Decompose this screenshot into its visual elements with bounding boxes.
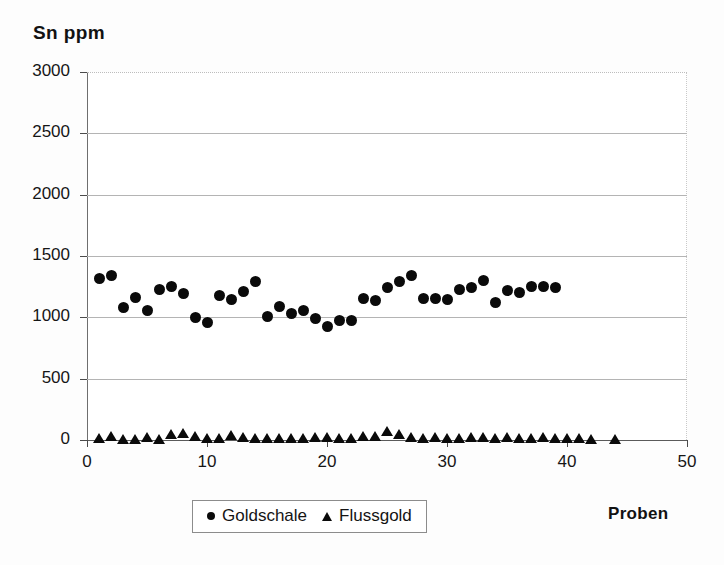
data-point-flussgold	[393, 429, 405, 439]
y-tick-2500	[80, 133, 87, 134]
data-point-flussgold	[213, 433, 225, 443]
data-point-flussgold	[609, 434, 621, 444]
x-axis-label-0: 0	[62, 452, 112, 472]
data-point-flussgold	[549, 433, 561, 443]
data-point-goldschale	[298, 305, 309, 316]
data-point-goldschale	[202, 317, 213, 328]
y-axis-label-0: 0	[10, 429, 70, 449]
data-point-flussgold	[429, 432, 441, 442]
data-point-goldschale	[190, 312, 201, 323]
data-point-flussgold	[309, 432, 321, 442]
data-point-goldschale	[262, 311, 273, 322]
data-point-goldschale	[310, 313, 321, 324]
data-point-goldschale	[394, 276, 405, 287]
data-point-goldschale	[250, 276, 261, 287]
data-point-goldschale	[178, 288, 189, 299]
data-point-goldschale	[118, 302, 129, 313]
x-axis-label-20: 20	[302, 452, 352, 472]
data-point-goldschale	[514, 287, 525, 298]
data-point-goldschale	[454, 284, 465, 295]
data-point-goldschale	[502, 285, 513, 296]
data-point-flussgold	[177, 428, 189, 438]
data-point-goldschale	[358, 293, 369, 304]
data-point-flussgold	[369, 431, 381, 441]
data-point-flussgold	[249, 433, 261, 443]
data-point-goldschale	[334, 315, 345, 326]
y-axis-label-1500: 1500	[10, 245, 70, 265]
x-axis-title: Proben	[608, 504, 668, 524]
data-point-flussgold	[333, 433, 345, 443]
data-point-flussgold	[285, 433, 297, 443]
data-point-flussgold	[381, 426, 393, 436]
data-point-flussgold	[189, 431, 201, 441]
gridline-y-2000	[87, 195, 687, 196]
x-tick-0	[87, 440, 88, 447]
data-point-flussgold	[525, 433, 537, 443]
x-axis-line	[87, 440, 688, 441]
data-point-goldschale	[370, 295, 381, 306]
data-point-flussgold	[165, 429, 177, 439]
data-point-flussgold	[237, 432, 249, 442]
data-point-goldschale	[478, 275, 489, 286]
data-point-flussgold	[465, 432, 477, 442]
data-point-flussgold	[105, 431, 117, 441]
data-point-goldschale	[154, 284, 165, 295]
data-point-goldschale	[166, 281, 177, 292]
y-tick-1500	[80, 256, 87, 257]
data-point-flussgold	[417, 433, 429, 443]
data-point-flussgold	[585, 434, 597, 444]
legend-item-flussgold: Flussgold	[322, 506, 412, 526]
y-tick-3000	[80, 72, 87, 73]
data-point-goldschale	[322, 321, 333, 332]
data-point-flussgold	[477, 432, 489, 442]
legend-label-flussgold: Flussgold	[339, 506, 412, 526]
circle-marker-icon	[207, 512, 215, 520]
data-point-flussgold	[453, 433, 465, 443]
data-point-flussgold	[405, 432, 417, 442]
data-point-goldschale	[466, 282, 477, 293]
data-point-goldschale	[130, 292, 141, 303]
y-tick-0	[80, 440, 87, 441]
data-point-goldschale	[346, 315, 357, 326]
data-point-goldschale	[238, 286, 249, 297]
gridline-y-2500	[87, 133, 687, 134]
chart-title: Sn ppm	[33, 22, 105, 44]
gridline-y-3000	[87, 72, 687, 73]
data-point-flussgold	[153, 434, 165, 444]
y-axis-label-500: 500	[10, 368, 70, 388]
gridline-y-500	[87, 379, 687, 380]
gridline-y-1500	[87, 256, 687, 257]
data-point-flussgold	[573, 433, 585, 443]
data-point-flussgold	[357, 431, 369, 441]
y-axis-label-3000: 3000	[10, 61, 70, 81]
x-axis-label-10: 10	[182, 452, 232, 472]
y-tick-1000	[80, 317, 87, 318]
data-point-goldschale	[214, 290, 225, 301]
y-tick-500	[80, 379, 87, 380]
data-point-flussgold	[297, 433, 309, 443]
data-point-goldschale	[550, 282, 561, 293]
data-point-goldschale	[106, 270, 117, 281]
data-point-flussgold	[561, 433, 573, 443]
data-point-goldschale	[274, 301, 285, 312]
data-point-flussgold	[201, 433, 213, 443]
data-point-flussgold	[345, 433, 357, 443]
triangle-marker-icon	[322, 512, 332, 521]
x-tick-50	[687, 440, 688, 447]
x-axis-label-40: 40	[542, 452, 592, 472]
data-point-flussgold	[141, 432, 153, 442]
data-point-flussgold	[117, 434, 129, 444]
data-point-goldschale	[526, 281, 537, 292]
x-axis-label-30: 30	[422, 452, 472, 472]
chart-page: Sn ppm 050010001500200025003000 01020304…	[0, 0, 724, 565]
data-point-goldschale	[490, 297, 501, 308]
data-point-flussgold	[93, 433, 105, 443]
y-tick-2000	[80, 195, 87, 196]
gridline-y-1000	[87, 317, 687, 318]
chart-legend: Goldschale Flussgold	[192, 500, 427, 533]
data-point-goldschale	[430, 293, 441, 304]
y-axis-label-2000: 2000	[10, 184, 70, 204]
data-point-goldschale	[442, 294, 453, 305]
y-axis-label-1000: 1000	[10, 306, 70, 326]
x-axis-label-50: 50	[662, 452, 712, 472]
